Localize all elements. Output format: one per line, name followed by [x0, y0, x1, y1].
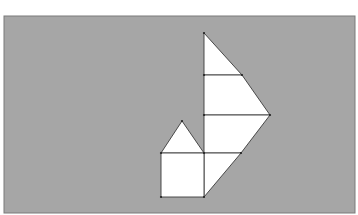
vertex-dot [269, 114, 271, 116]
vertex-dot [160, 152, 162, 154]
vertex-dot [203, 74, 205, 76]
vertex-dot [240, 152, 242, 154]
vertex-dot [203, 152, 205, 154]
vertex-dot [160, 196, 162, 198]
vertex-dot [181, 120, 183, 122]
house-body-square [161, 153, 204, 197]
vertex-dot [241, 74, 243, 76]
diagram-canvas [0, 0, 358, 215]
vertex-dot [203, 32, 205, 34]
vertex-dot [203, 196, 205, 198]
vertex-dot [203, 114, 205, 116]
